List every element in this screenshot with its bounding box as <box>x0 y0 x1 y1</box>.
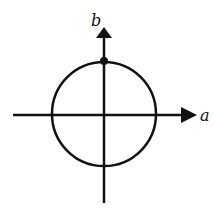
point-marker <box>100 57 108 65</box>
axis-label-b: b <box>91 11 101 30</box>
diagram-canvas: b a <box>0 0 214 209</box>
axis-label-a: a <box>200 106 210 125</box>
arrow-right-icon <box>181 107 197 123</box>
